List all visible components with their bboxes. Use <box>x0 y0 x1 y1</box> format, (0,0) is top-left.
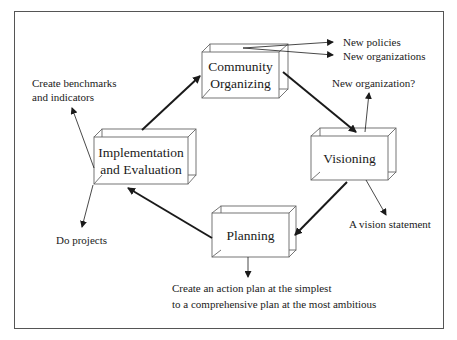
node-label-line1: Implementation <box>98 144 183 161</box>
note-vision-statement: A vision statement <box>349 217 431 232</box>
arrow-to-do-projects <box>82 185 93 227</box>
arrow-planning-to-implementation <box>128 188 212 238</box>
node-label-line1: Visioning <box>323 150 375 167</box>
node-label-line2: and Evaluation <box>98 161 183 178</box>
arrow-to-new-organization-question <box>365 93 369 132</box>
node-label-line1: Community <box>208 58 273 75</box>
note-new-organization-question: New organization? <box>332 76 415 91</box>
note-new-organizations: New organizations <box>343 49 426 64</box>
node-community-organizing: Community Organizing <box>202 52 279 98</box>
arrow-visioning-to-planning <box>295 182 347 235</box>
note-do-projects: Do projects <box>56 233 107 248</box>
note-action-plan-line2: to a comprehensive plan at the most ambi… <box>172 297 376 312</box>
node-visioning: Visioning <box>311 136 388 180</box>
note-new-policies: New policies <box>343 35 401 50</box>
arrow-to-vision-statement <box>366 180 386 215</box>
note-action-plan-line1: Create an action plan at the simplest <box>172 281 331 296</box>
note-benchmarks-line1: Create benchmarks <box>32 76 117 91</box>
node-label-line1: Planning <box>226 227 274 244</box>
note-benchmarks-line2: and indicators <box>32 90 94 105</box>
arrow-implementation-to-community <box>142 76 200 130</box>
node-label-line2: Organizing <box>208 75 273 92</box>
node-implementation-evaluation: Implementation and Evaluation <box>94 137 188 184</box>
node-planning: Planning <box>212 213 289 257</box>
arrow-to-benchmarks <box>72 108 94 168</box>
